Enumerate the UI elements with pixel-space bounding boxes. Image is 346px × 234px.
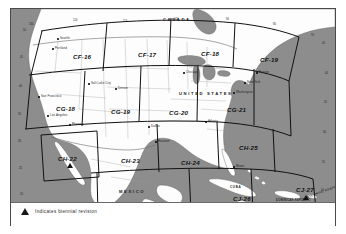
grid-cell-cf-19[interactable]: CF-19 <box>260 56 278 63</box>
tick-lat-25-right: 25 <box>322 161 325 164</box>
tick-lat-40-right: 40 <box>325 72 328 75</box>
tick-lon-120: 120 <box>73 19 77 22</box>
city-dot-phoenix <box>69 124 71 126</box>
grid-cell-ch-23[interactable]: CH-23 <box>121 157 140 164</box>
city-label-denver: Denver <box>118 86 128 90</box>
tick-lon-100: 100 <box>174 18 178 21</box>
city-dot-denver <box>115 88 117 90</box>
tick-lat-50-left: 50 <box>23 29 26 32</box>
chart-index-map: CANADA UNITED STATES MEXICO CUBA JAMAICA… <box>0 0 346 234</box>
country-label-mexico: MEXICO <box>119 189 145 194</box>
city-label-new-york: New York <box>247 80 260 84</box>
legend-row: Indicates biennial revision <box>21 208 97 215</box>
tick-lon-90: 90 <box>226 18 229 21</box>
legend-strip: Indicates biennial revision <box>11 202 335 226</box>
tick-lat-45-right: 45 <box>322 42 325 45</box>
bahamas-islands <box>247 169 266 185</box>
tick-lat-35-left: 35 <box>18 113 21 116</box>
grid-cell-cf-18[interactable]: CF-18 <box>201 50 219 57</box>
landmass-layer <box>11 9 335 225</box>
grid-cell-cg-19[interactable]: CG-19 <box>111 108 130 115</box>
city-dot-portland <box>52 48 54 50</box>
lake-huron-erie <box>203 65 215 80</box>
revision-triangle-cj-27-icon <box>303 195 309 200</box>
city-dot-san-francisco <box>38 96 40 98</box>
city-dot-chicago <box>183 72 185 74</box>
grid-cell-cg-20[interactable]: CG-20 <box>169 109 188 116</box>
tick-lon-70: 70 <box>311 34 314 37</box>
city-label-seattle: Seattle <box>60 36 70 40</box>
tick-lat-35-right: 35 <box>324 101 327 104</box>
tick-lat-45-left: 45 <box>20 56 23 59</box>
grid-cell-ch-24[interactable]: CH-24 <box>181 159 200 166</box>
city-label-chicago: Chicago <box>186 70 198 74</box>
city-label-washington: Washington <box>236 90 253 94</box>
city-label-phoenix: Phoenix <box>72 122 84 126</box>
grid-cell-ch-25[interactable]: CH-25 <box>239 144 258 151</box>
grid-cell-cg-21[interactable]: CG-21 <box>227 106 246 113</box>
city-dot-dallas <box>148 126 150 128</box>
city-label-los-angeles: Los Angeles <box>50 113 67 117</box>
grid-cell-cf-17[interactable]: CF-17 <box>138 51 156 58</box>
city-label-salt-lake-city: Salt Lake City <box>91 81 111 85</box>
lake-ontario <box>218 71 231 77</box>
legend-text: Indicates biennial revision <box>35 209 97 214</box>
grid-cell-cj-26[interactable]: CJ-26 <box>233 195 251 202</box>
city-label-miami: Miami <box>236 164 244 168</box>
city-dot-seattle <box>57 38 59 40</box>
city-dot-washington <box>233 92 235 94</box>
tick-lon-130: 130 <box>29 23 33 26</box>
city-dot-boston <box>256 72 258 74</box>
tick-lon-80: 80 <box>273 23 276 26</box>
tick-lat-20-left: 20 <box>20 193 23 196</box>
city-dot-los-angeles <box>47 115 49 117</box>
city-label-san-francisco: San Francisco <box>41 94 61 98</box>
revision-triangle-ch-22-icon <box>67 163 73 168</box>
city-dot-salt-lake-city <box>88 83 90 85</box>
tick-lon-110: 110 <box>123 20 127 23</box>
grid-cell-cf-16[interactable]: CF-16 <box>73 53 91 60</box>
country-label-cuba: CUBA <box>230 185 241 189</box>
city-dot-atlanta <box>205 121 207 123</box>
tick-lat-40-left: 40 <box>19 85 22 88</box>
city-dot-houston <box>155 141 157 143</box>
country-label-united-states: UNITED STATES <box>179 91 232 96</box>
city-dot-miami <box>233 166 235 168</box>
city-label-boston: Boston <box>259 70 269 74</box>
city-label-dallas: Dallas <box>151 124 160 128</box>
tick-lat-30-left: 30 <box>18 140 21 143</box>
city-label-portland: Portland <box>55 46 67 50</box>
city-label-houston: Houston <box>158 139 170 143</box>
grid-cell-cg-18[interactable]: CG-18 <box>56 105 75 112</box>
grid-cell-cj-27[interactable]: CJ-27 <box>296 186 314 193</box>
triangle-marker-icon <box>21 208 29 215</box>
tick-lat-25-left: 25 <box>19 167 22 170</box>
tick-lat-20-right: 20 <box>321 189 324 192</box>
grid-cell-ch-22[interactable]: CH-22 <box>58 155 77 162</box>
city-dot-new-york <box>244 82 246 84</box>
map-canvas: CANADA UNITED STATES MEXICO CUBA JAMAICA… <box>11 9 335 225</box>
tick-lat-30-right: 30 <box>323 131 326 134</box>
city-label-atlanta: Atlanta <box>208 119 218 123</box>
